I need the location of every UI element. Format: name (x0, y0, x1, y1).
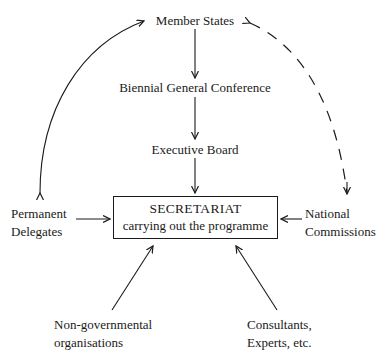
secretariat-subtitle: carrying out the programme (114, 217, 277, 234)
arrow-ngo-to-secretariat (112, 246, 153, 310)
consultants-line1: Consultants, (247, 317, 312, 333)
node-member-states: Member States (145, 13, 245, 29)
node-executive-board: Executive Board (140, 142, 250, 158)
permanent-delegates-line1: Permanent (11, 206, 67, 222)
curve-member-commissions (250, 23, 347, 193)
arrow-consultants-to-secretariat (236, 246, 277, 310)
node-consultants-experts: Consultants, Experts, etc. (247, 317, 312, 351)
ngo-line2: organisations (54, 335, 152, 351)
node-non-governmental-organisations: Non-governmental organisations (54, 317, 152, 351)
diagram-connectors (0, 0, 387, 356)
permanent-delegates-line2: Delegates (11, 224, 67, 240)
node-biennial-general-conference: Biennial General Conference (110, 80, 280, 96)
node-national-commissions: National Commissions (305, 206, 376, 240)
secretariat-title: SECRETARIAT (114, 201, 277, 217)
national-commissions-line1: National (305, 206, 376, 222)
national-commissions-line2: Commissions (305, 224, 376, 240)
curve-member-delegates (40, 21, 144, 193)
node-permanent-delegates: Permanent Delegates (11, 206, 67, 240)
ngo-line1: Non-governmental (54, 317, 152, 333)
node-secretariat: SECRETARIAT carrying out the programme (113, 196, 278, 239)
consultants-line2: Experts, etc. (247, 335, 312, 351)
